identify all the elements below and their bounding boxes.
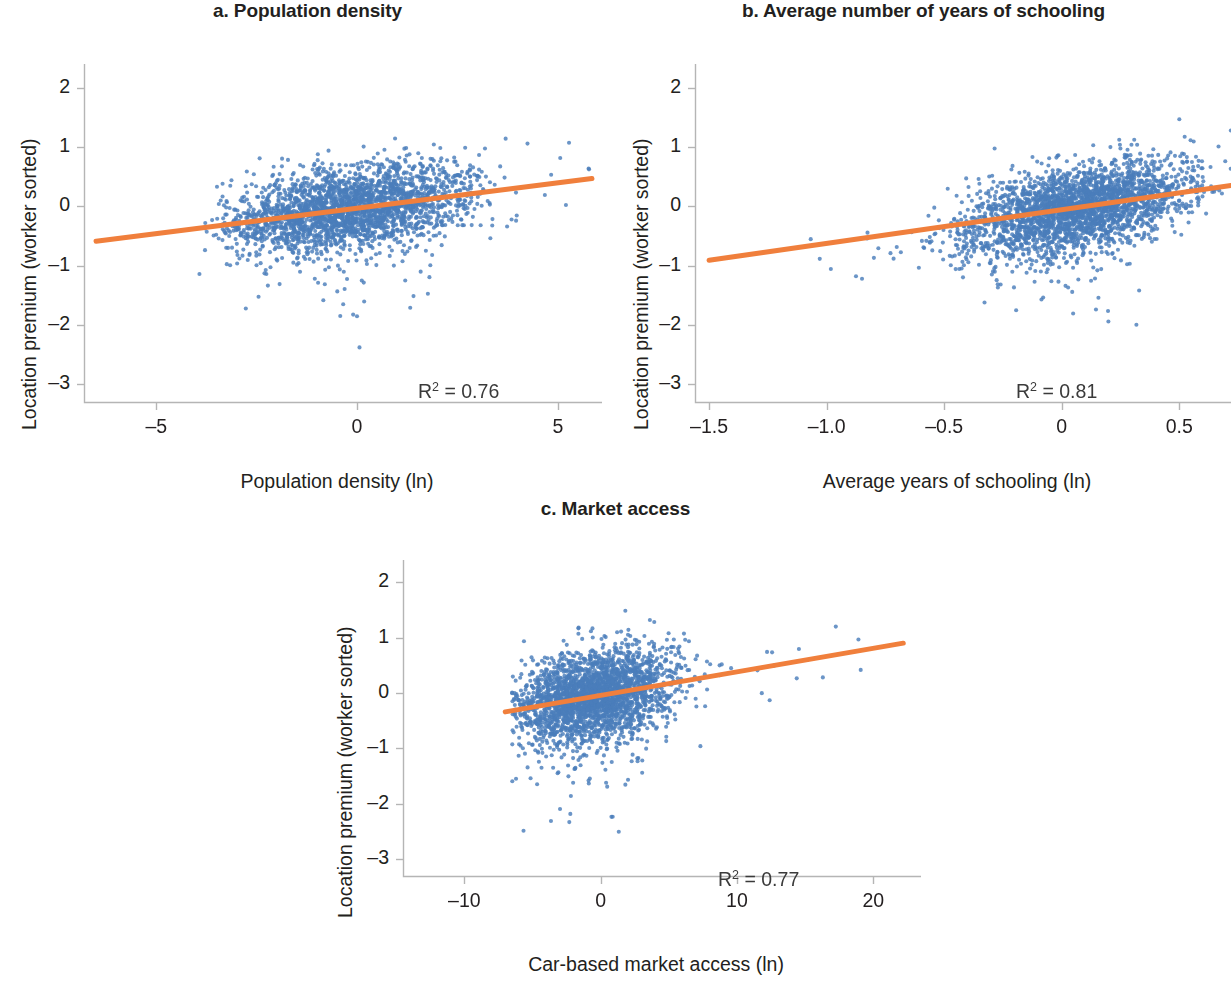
panel-c-ytick-2: 0 [331, 680, 389, 703]
panel-c-xtick-1: 0 [561, 889, 641, 912]
panel-a-ytick-1: 1 [12, 134, 70, 157]
panel-b-xtick-3: 0 [1022, 415, 1102, 438]
panel-b-r2-annotation: R2 = 0.81 [1016, 380, 1097, 403]
panel-c-r2-value: = 0.77 [739, 868, 799, 890]
panel-c-ytick-5: –3 [331, 846, 389, 869]
panel-population-density: a. Population density Location premium (… [0, 0, 615, 505]
panel-a-r2-annotation: R2 = 0.76 [418, 380, 499, 403]
panel-b-ytick-2: 0 [623, 193, 681, 216]
panel-b-ytick-3: –1 [623, 253, 681, 276]
panel-c-xlabel: Car-based market access (ln) [391, 953, 921, 976]
panel-a-xtick-2: 5 [518, 415, 598, 438]
panel-c-ytick-3: –1 [331, 735, 389, 758]
panel-b-ytick-0: 2 [623, 75, 681, 98]
panel-a-title: a. Population density [0, 0, 615, 22]
panel-c-title: c. Market access [308, 498, 923, 520]
panel-b-ytick-4: –2 [623, 312, 681, 335]
panel-b-r2-exponent: 2 [1030, 380, 1037, 394]
panel-market-access: c. Market access Location premium (worke… [308, 498, 923, 994]
panel-c-xtick-0: –10 [424, 889, 504, 912]
panel-b-r2-value: = 0.81 [1037, 380, 1097, 402]
panel-a-ytick-2: 0 [12, 193, 70, 216]
panel-b-ytick-5: –3 [623, 371, 681, 394]
scatter-figure: a. Population density Location premium (… [0, 0, 1231, 994]
panel-b-xtick-0: –1.5 [669, 415, 749, 438]
panel-a-ytick-0: 2 [12, 75, 70, 98]
panel-a-xtick-1: 0 [317, 415, 397, 438]
panel-c-xtick-2: 10 [697, 889, 777, 912]
panel-c-r2-exponent: 2 [732, 868, 739, 882]
panel-a-r2-exponent: 2 [432, 380, 439, 394]
panel-c-ylabel: Location premium (worker sorted) [334, 626, 357, 918]
panel-a-ytick-5: –3 [12, 371, 70, 394]
panel-c-ytick-4: –2 [331, 791, 389, 814]
panel-c-r2-annotation: R2 = 0.77 [718, 868, 799, 891]
panel-a-ytick-3: –1 [12, 253, 70, 276]
panel-b-xtick-2: –0.5 [904, 415, 984, 438]
panel-a-xtick-0: –5 [116, 415, 196, 438]
panel-a-r2-value: = 0.76 [439, 380, 499, 402]
panel-a-r2-symbol: R [418, 380, 432, 402]
panel-c-r2-symbol: R [718, 868, 732, 890]
panel-c-ytick-0: 2 [331, 569, 389, 592]
panel-c-xtick-3: 20 [833, 889, 913, 912]
panel-a-xlabel: Population density (ln) [72, 470, 602, 493]
panel-b-ytick-1: 1 [623, 134, 681, 157]
panel-a-ytick-4: –2 [12, 312, 70, 335]
panel-b-r2-symbol: R [1016, 380, 1030, 402]
panel-a-plot-area [72, 60, 602, 440]
panel-b-title: b. Average number of years of schooling [616, 0, 1231, 22]
panel-years-schooling: b. Average number of years of schooling … [616, 0, 1231, 505]
panel-c-ytick-1: 1 [331, 625, 389, 648]
panel-b-xtick-1: –1.0 [787, 415, 867, 438]
panel-b-plot-area [683, 60, 1231, 440]
panel-b-xtick-4: 0.5 [1139, 415, 1219, 438]
panel-c-plot-area [391, 556, 921, 914]
panel-b-xlabel: Average years of schooling (ln) [683, 470, 1231, 493]
